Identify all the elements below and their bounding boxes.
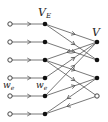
middle-set-label: VE — [38, 6, 51, 20]
bipartite-flow-diagram: VE V we we — [0, 0, 108, 122]
middle-node-0 — [43, 22, 48, 27]
edge — [45, 60, 97, 96]
middle-node-2 — [43, 58, 48, 63]
left-node-5 — [8, 112, 12, 116]
edge — [45, 42, 97, 96]
left-weight-label: we — [3, 80, 15, 91]
middle-node-5 — [43, 112, 48, 117]
right-node-0 — [95, 40, 100, 45]
right-set-label: V — [92, 26, 101, 39]
right-node-2 — [95, 76, 100, 81]
middle-node-1 — [43, 40, 48, 45]
middle-node-4 — [43, 94, 48, 99]
nodes-layer — [8, 22, 99, 117]
edge — [45, 24, 97, 42]
edge — [45, 42, 97, 78]
middle-weight-label: we — [36, 80, 48, 91]
left-node-1 — [8, 40, 12, 44]
right-node-3 — [95, 94, 99, 98]
edges-layer — [10, 22, 97, 116]
left-node-0 — [8, 22, 12, 26]
edge — [45, 24, 97, 60]
left-node-2 — [8, 58, 12, 62]
edge — [45, 78, 97, 114]
left-node-4 — [8, 94, 12, 98]
right-node-1 — [95, 58, 100, 63]
